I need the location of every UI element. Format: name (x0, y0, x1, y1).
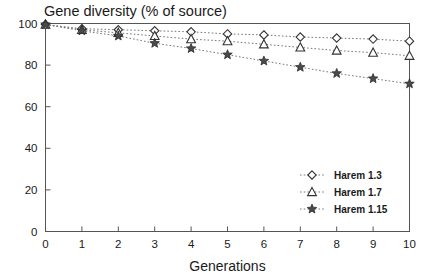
data-point-triangle (260, 40, 269, 48)
chart-container: Gene diversity (% of source)020406080100… (0, 0, 428, 278)
y-tick-label: 20 (25, 184, 38, 196)
gene-diversity-line-chart: Gene diversity (% of source)020406080100… (0, 0, 428, 278)
legend-marker-diamond (308, 171, 316, 179)
data-point-diamond (333, 34, 341, 42)
data-point-triangle (223, 37, 232, 45)
data-point-triangle (405, 51, 414, 59)
x-tick-label: 8 (333, 238, 339, 250)
x-tick-label: 1 (79, 238, 85, 250)
x-axis-label: Generations (189, 258, 265, 274)
data-point-diamond (369, 35, 377, 43)
legend-marker-star (307, 204, 317, 213)
data-point-star (223, 50, 233, 59)
x-tick-label: 5 (224, 238, 230, 250)
data-point-diamond (260, 31, 268, 39)
data-point-star (296, 62, 306, 71)
data-point-star (259, 56, 269, 65)
x-tick-label: 6 (261, 238, 267, 250)
x-tick-label: 7 (297, 238, 303, 250)
legend-marker-triangle (308, 187, 317, 195)
x-tick-label: 10 (403, 238, 416, 250)
legend-label: Harem 1.3 (334, 170, 382, 181)
y-tick-label: 80 (25, 59, 38, 71)
y-tick-label: 0 (31, 226, 37, 238)
legend-label: Harem 1.15 (334, 204, 388, 215)
y-tick-label: 100 (18, 18, 37, 30)
data-point-star (186, 43, 196, 52)
data-point-star (368, 74, 378, 83)
x-tick-label: 4 (188, 238, 195, 250)
x-tick-label: 0 (42, 238, 48, 250)
data-point-diamond (296, 33, 304, 41)
chart-title: Gene diversity (% of source) (44, 3, 227, 19)
data-point-star (114, 31, 124, 40)
data-point-diamond (405, 37, 413, 45)
legend-label: Harem 1.7 (334, 187, 382, 198)
data-point-triangle (187, 35, 196, 43)
x-tick-label: 2 (115, 238, 121, 250)
data-point-star (332, 68, 342, 77)
x-tick-label: 3 (151, 238, 157, 250)
y-tick-label: 40 (25, 142, 38, 154)
x-tick-label: 9 (370, 238, 376, 250)
y-tick-label: 60 (25, 101, 38, 113)
